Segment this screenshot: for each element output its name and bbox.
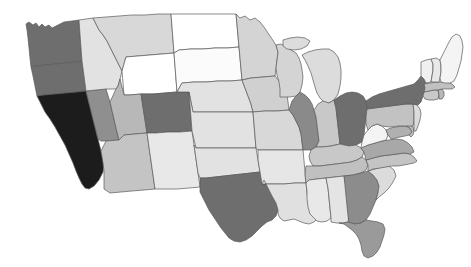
state-CO[interactable] — [141, 92, 192, 133]
state-MD[interactable] — [386, 126, 412, 139]
state-RI[interactable] — [438, 89, 444, 99]
state-WY[interactable] — [122, 53, 177, 95]
state-GA[interactable] — [344, 171, 379, 224]
state-OR[interactable] — [31, 61, 86, 96]
state-AR[interactable] — [258, 150, 306, 184]
state-NJ[interactable] — [413, 104, 421, 131]
state-NM[interactable] — [147, 131, 200, 189]
choropleth-map-container — [0, 0, 471, 267]
state-WA[interactable] — [26, 20, 82, 67]
state-FL[interactable] — [339, 220, 385, 258]
state-WI[interactable] — [276, 44, 303, 97]
us-choropleth-map[interactable] — [0, 0, 471, 267]
state-NY[interactable] — [366, 76, 426, 109]
state-AZ[interactable] — [101, 133, 155, 193]
state-ME[interactable] — [440, 34, 463, 83]
state-ND[interactable] — [171, 14, 239, 53]
state-MN[interactable] — [236, 14, 278, 80]
